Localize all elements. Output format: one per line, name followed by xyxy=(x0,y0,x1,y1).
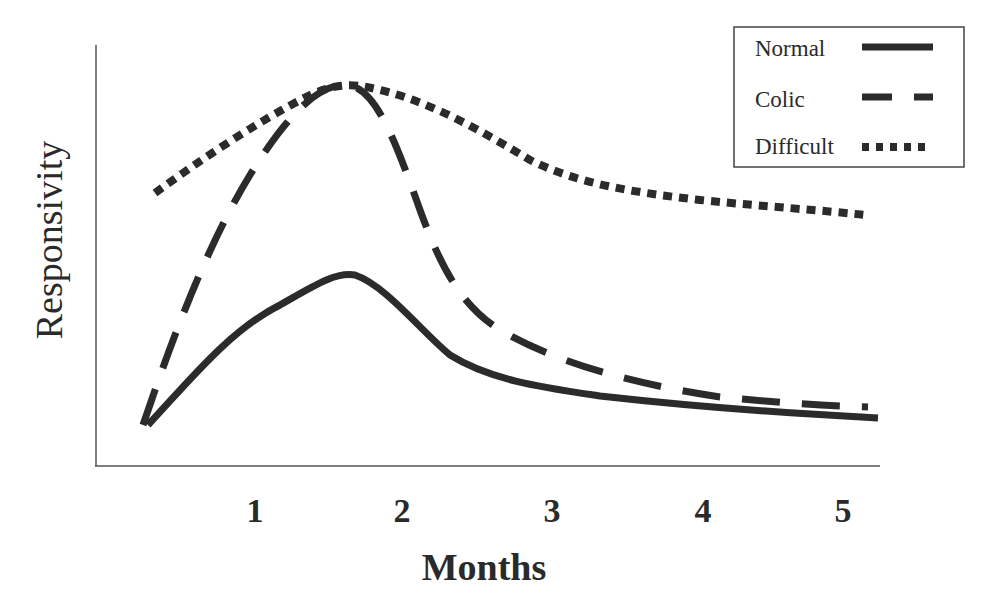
legend: Normal Colic Difficult xyxy=(734,27,964,167)
legend-label: Colic xyxy=(755,87,805,112)
x-axis-label: Months xyxy=(422,546,547,588)
x-tick-label: 3 xyxy=(544,492,561,529)
legend-label: Normal xyxy=(755,36,825,61)
x-tick-label: 4 xyxy=(695,492,712,529)
x-tick-label: 2 xyxy=(394,492,411,529)
x-tick-label: 5 xyxy=(835,492,852,529)
line-chart: 1 2 3 4 5 Months Responsivity Normal Col… xyxy=(0,0,994,608)
y-axis-label: Responsivity xyxy=(28,141,70,339)
x-tick-label: 1 xyxy=(247,492,264,529)
legend-label: Difficult xyxy=(755,134,834,159)
